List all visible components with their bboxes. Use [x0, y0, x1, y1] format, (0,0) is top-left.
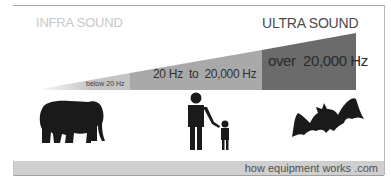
- footer-bar: how equipment works .com: [14, 161, 384, 176]
- range-label-infra: below 20 Hz: [86, 80, 125, 87]
- adult-and-child-icon: [184, 92, 236, 152]
- footer-credit: how equipment works .com: [245, 161, 378, 175]
- frequency-wedge: [0, 0, 391, 182]
- range-label-audible: 20 Hz to 20,000 Hz: [153, 67, 256, 81]
- elephant-icon: [36, 99, 108, 145]
- range-label-ultra: over 20,000 Hz: [268, 52, 368, 69]
- bat-icon: [290, 95, 366, 141]
